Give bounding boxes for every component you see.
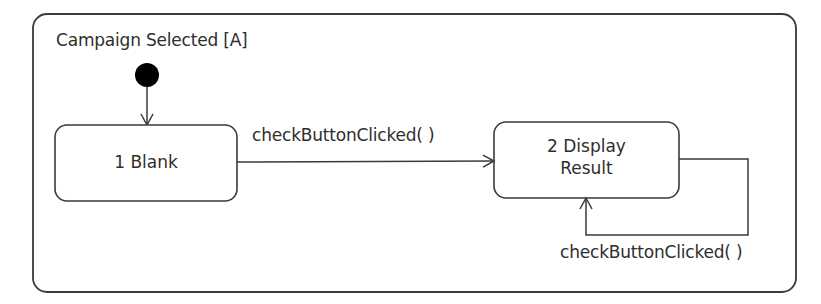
state-blank-label: 1 Blank: [55, 151, 237, 173]
self-transition-display-label: checkButtonClicked( ): [560, 242, 742, 262]
initial-state-dot: [135, 63, 159, 87]
state-display-result-line1: 2 Display: [494, 135, 679, 157]
transition-blank-to-display-label: checkButtonClicked( ): [252, 125, 434, 145]
state-display-result-line2: Result: [494, 157, 679, 179]
state-blank-name: 1 Blank: [114, 152, 178, 172]
state-display-result-label: 2 Display Result: [494, 135, 679, 179]
transition-blank-to-display-arrow: [237, 161, 494, 162]
composite-state-label: Campaign Selected [A]: [56, 30, 248, 50]
